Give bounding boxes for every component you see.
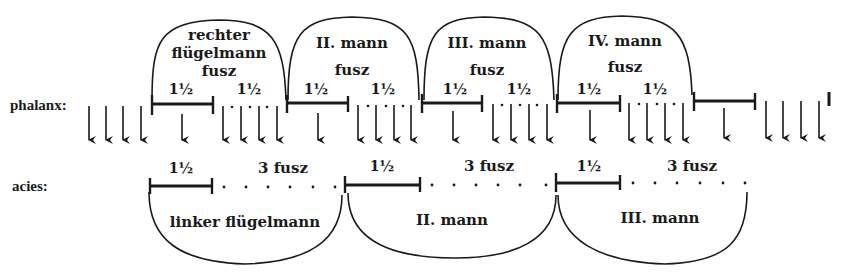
acies-man-2: 1½ 3 fusz II. mann bbox=[370, 157, 515, 229]
acies-bars bbox=[150, 173, 620, 194]
phalanx-man-4: IV. mann fusz 1½ 1½ bbox=[577, 32, 667, 97]
acies-label: acies: bbox=[12, 178, 48, 194]
span2-label: 3 fusz bbox=[667, 157, 717, 175]
unit-label: fusz bbox=[202, 62, 237, 80]
span2-label: 1½ bbox=[371, 81, 395, 97]
name-line1: II. mann bbox=[316, 34, 388, 52]
span2-label: 3 fusz bbox=[464, 157, 514, 175]
phalanx-label: phalanx: bbox=[10, 97, 67, 113]
name-label: II. mann bbox=[416, 211, 488, 229]
span2-label: 1½ bbox=[237, 81, 261, 97]
span2-label: 3 fusz bbox=[258, 159, 308, 177]
span2-label: 1½ bbox=[507, 81, 531, 97]
span1-label: 1½ bbox=[169, 160, 193, 176]
name-line1: III. mann bbox=[448, 34, 527, 52]
span1-label: 1½ bbox=[304, 81, 328, 97]
unit-label: fusz bbox=[608, 58, 643, 76]
span1-label: 1½ bbox=[577, 158, 601, 174]
span1-label: 1½ bbox=[169, 81, 193, 97]
phalanx-arrows bbox=[89, 101, 819, 140]
span1-label: 1½ bbox=[443, 81, 467, 97]
name-label: III. mann bbox=[621, 209, 700, 227]
unit-label: fusz bbox=[470, 61, 505, 79]
phalanx-man-1: rechter flügelmann fusz 1½ 1½ bbox=[169, 26, 267, 97]
unit-label: fusz bbox=[335, 61, 370, 79]
name-line1: IV. mann bbox=[588, 32, 662, 50]
name-line2: flügelmann bbox=[172, 44, 267, 62]
phalanx-man-3: III. mann fusz 1½ 1½ bbox=[443, 34, 531, 97]
phalanx-acies-diagram: phalanx: acies: rechter flügelmann fusz … bbox=[0, 0, 843, 273]
acies-dots bbox=[223, 182, 747, 189]
span2-label: 1½ bbox=[643, 81, 667, 97]
name-label: linker flügelmann bbox=[170, 213, 320, 231]
phalanx-man-2: II. mann fusz 1½ 1½ bbox=[304, 34, 395, 97]
span1-label: 1½ bbox=[577, 81, 601, 97]
span1-label: 1½ bbox=[370, 158, 394, 174]
name-line1: rechter bbox=[188, 26, 251, 44]
acies-man-1: 1½ 3 fusz linker flügelmann bbox=[169, 159, 320, 231]
acies-man-3: 1½ 3 fusz III. mann bbox=[577, 157, 718, 227]
